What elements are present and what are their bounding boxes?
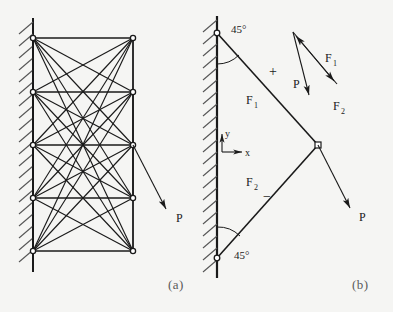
member-label-f1: F 1	[246, 93, 258, 110]
node-L5	[30, 248, 35, 253]
coordinate-axes: y x	[222, 128, 250, 158]
svg-text:2: 2	[254, 183, 258, 192]
hatching-b	[203, 20, 217, 272]
panel-b-group: 45° 45° F 1 F 2 + − y x P	[203, 16, 366, 278]
axis-label-y: y	[225, 128, 230, 139]
node-R5	[130, 248, 135, 253]
node-bottom-support-b	[214, 255, 220, 261]
load-label-a: P	[176, 211, 183, 225]
node-L4	[30, 195, 35, 200]
svg-text:F: F	[246, 93, 253, 107]
force-label-f2: F 2	[333, 99, 345, 116]
angle-label-bottom: 45°	[234, 249, 249, 261]
node-top-support-b	[214, 30, 220, 36]
load-arrow-a	[133, 145, 166, 209]
force-label-p: P	[293, 77, 300, 91]
hatching-a	[19, 22, 33, 262]
member-label-f2: F 2	[246, 175, 258, 192]
node-L1	[30, 35, 35, 40]
svg-text:F: F	[333, 99, 340, 113]
angle-arc-top	[217, 55, 239, 64]
force-label-f1: F 1	[325, 51, 337, 68]
node-R4	[130, 195, 135, 200]
svg-text:F: F	[246, 175, 253, 189]
panel-a-group: P	[19, 18, 183, 272]
force-triangle: F 1 P F 2	[293, 32, 345, 116]
svg-text:2: 2	[341, 107, 345, 116]
node-R1	[130, 35, 135, 40]
svg-text:1: 1	[254, 101, 258, 110]
figure-root: P	[0, 0, 393, 312]
member-f1	[217, 33, 318, 145]
caption-panel-a: (a)	[168, 277, 184, 293]
svg-text:F: F	[325, 51, 332, 65]
load-arrow-b	[318, 145, 350, 208]
angle-label-top: 45°	[231, 23, 246, 35]
axis-label-x: x	[245, 147, 250, 158]
caption-panel-b: (b)	[352, 277, 369, 293]
truss-figure-svg: P	[0, 0, 393, 312]
svg-text:1: 1	[333, 59, 337, 68]
sign-plus: +	[269, 64, 277, 79]
sign-minus: −	[263, 189, 271, 204]
node-L2	[30, 89, 35, 94]
load-label-b: P	[359, 210, 366, 224]
wall-support-b	[203, 16, 217, 278]
angle-arc-bottom	[217, 227, 240, 236]
node-L3	[30, 142, 35, 147]
node-R2	[130, 89, 135, 94]
